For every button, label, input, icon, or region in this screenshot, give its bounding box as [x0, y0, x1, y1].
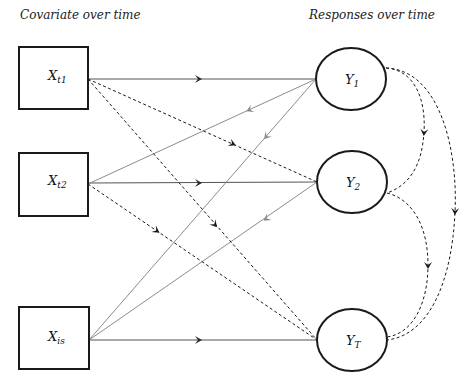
arrowheads	[151, 75, 459, 344]
arrow-curve-icon	[420, 129, 429, 137]
edge-xt2-y2	[88, 182, 317, 183]
arrow-feedback-icon	[245, 105, 255, 115]
edge-y2-xis	[89, 182, 317, 340]
dashed-response-curves	[386, 68, 455, 340]
path-diagram: Xt1 Xt2 Xis Y1 Y2 YT	[0, 0, 473, 384]
curve-y2-yT	[387, 193, 428, 337]
arrow-lagged-icon	[228, 139, 238, 149]
edge-y1-xis	[89, 79, 316, 340]
covariate-nodes	[19, 47, 89, 369]
arrow-curve-icon	[424, 262, 432, 269]
arrow-lagged-icon	[151, 225, 161, 236]
curve-y1-y2	[386, 68, 424, 193]
edge-y1-xt2	[88, 79, 316, 184]
response-nodes	[316, 48, 387, 371]
curve-y1-yT	[386, 68, 455, 340]
